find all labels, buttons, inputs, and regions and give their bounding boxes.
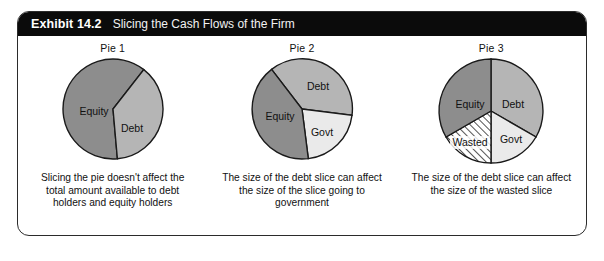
pie-2-label-govt: Govt bbox=[311, 126, 333, 138]
pie-3-label-equity: Equity bbox=[456, 98, 486, 110]
panel-caption-pie-1: Slicing the pie doesn't affect the total… bbox=[33, 172, 193, 210]
pie-2-label-equity: Equity bbox=[265, 110, 295, 122]
panel-title-pie-1: Pie 1 bbox=[100, 42, 125, 54]
pie-chart-3: Equity Debt Govt Wasted bbox=[437, 57, 545, 165]
pie-holder-3: Equity Debt Govt Wasted bbox=[437, 57, 545, 163]
panel-pie-2: Pie 2 Equity Debt Govt The size of the d… bbox=[207, 36, 396, 235]
pie-holder-1: Equity Debt bbox=[61, 57, 165, 163]
pie-chart-1: Equity Debt bbox=[61, 57, 165, 161]
panel-title-pie-3: Pie 3 bbox=[479, 42, 504, 54]
pie-chart-2: Equity Debt Govt bbox=[250, 57, 354, 161]
panels-row: Pie 1 Equity Debt Slicing the pie doesn'… bbox=[18, 36, 586, 235]
pie-2-label-debt: Debt bbox=[307, 80, 329, 92]
panel-caption-pie-3: The size of the debt slice can affect th… bbox=[411, 172, 571, 197]
pie-3-label-wasted: Wasted bbox=[453, 136, 488, 148]
pie-3-label-debt: Debt bbox=[502, 98, 524, 110]
panel-title-pie-2: Pie 2 bbox=[290, 42, 315, 54]
pie-3-label-wasted-group: Wasted bbox=[450, 136, 490, 149]
pie-holder-2: Equity Debt Govt bbox=[250, 57, 354, 163]
panel-pie-1: Pie 1 Equity Debt Slicing the pie doesn'… bbox=[18, 36, 207, 235]
pie-1-label-debt: Debt bbox=[121, 122, 143, 134]
panel-caption-pie-2: The size of the debt slice can affect th… bbox=[222, 172, 382, 210]
exhibit-header: Exhibit 14.2 Slicing the Cash Flows of t… bbox=[18, 12, 586, 36]
exhibit-number: Exhibit 14.2 bbox=[31, 17, 102, 31]
pie-1-label-equity: Equity bbox=[79, 105, 109, 117]
exhibit-frame: Exhibit 14.2 Slicing the Cash Flows of t… bbox=[17, 11, 587, 236]
exhibit-title: Slicing the Cash Flows of the Firm bbox=[113, 17, 295, 31]
pie-3-label-govt: Govt bbox=[500, 133, 522, 145]
panel-pie-3: Pie 3 Eq bbox=[397, 36, 586, 235]
